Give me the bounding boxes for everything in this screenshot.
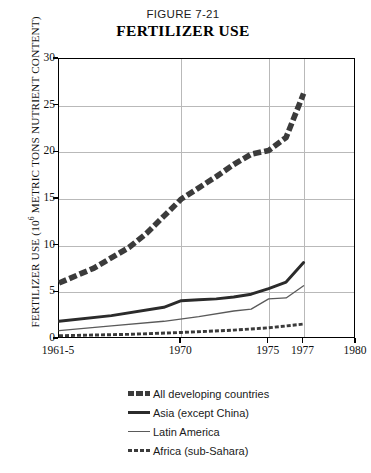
x-axis-tick: [267, 338, 269, 343]
legend-item-label: All developing countries: [153, 388, 269, 400]
data-series-layer: [58, 58, 355, 338]
y-axis-label-exponent: 6: [27, 216, 36, 220]
y-axis-tick-label: 10: [25, 238, 55, 250]
figure-title: FERTILIZER USE: [0, 22, 366, 40]
data-series-line: [59, 324, 304, 336]
x-axis-tick: [179, 338, 181, 343]
x-axis-tick-label: 1961-5: [28, 344, 88, 356]
x-axis-tick-label: 1980: [325, 344, 371, 356]
plot-area: [58, 58, 355, 338]
y-axis-label-pre: FERTILIZER USE (10: [29, 220, 41, 327]
legend-swatch-icon: [128, 407, 150, 419]
data-series-line: [59, 286, 304, 331]
legend-item: Asia (except China): [128, 403, 269, 422]
y-axis-tick-label: 30: [25, 51, 55, 63]
legend-item-label: Asia (except China): [153, 407, 249, 419]
legend-swatch-icon: [128, 388, 150, 400]
legend: All developing countriesAsia (except Chi…: [128, 384, 269, 460]
figure-number: FIGURE 7-21: [0, 8, 366, 20]
x-axis-tick: [354, 338, 356, 343]
legend-item-label: Latin America: [153, 426, 220, 438]
legend-item: All developing countries: [128, 384, 269, 403]
y-axis-tick-label: 20: [25, 144, 55, 156]
legend-swatch-icon: [128, 445, 150, 457]
x-axis-tick-label: 1977: [273, 344, 333, 356]
legend-item: Africa (sub-Sahara): [128, 441, 269, 460]
x-axis-tick-label: 1970: [150, 344, 210, 356]
y-axis-label-post: METRIC TONS NUTRIENT CONTENT): [29, 16, 41, 216]
y-axis-tick-label: 25: [25, 98, 55, 110]
legend-swatch-icon: [128, 426, 150, 438]
x-axis-tick: [302, 338, 304, 343]
legend-item: Latin America: [128, 422, 269, 441]
data-series-line: [59, 94, 304, 283]
data-series-line: [59, 262, 304, 321]
legend-item-label: Africa (sub-Sahara): [153, 445, 248, 457]
y-axis-tick-label: 5: [25, 284, 55, 296]
y-axis-tick-label: 15: [25, 191, 55, 203]
y-axis-tick-label: 0: [25, 331, 55, 343]
